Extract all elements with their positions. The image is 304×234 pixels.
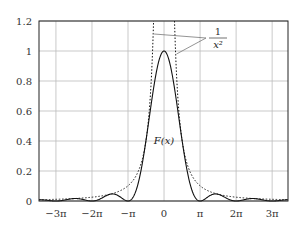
ticks: −3π−2π−π0π2π3π00.20.40.60.811.2 [16, 16, 279, 220]
annotation-arrow [177, 38, 206, 54]
x-tick-label: 0 [161, 208, 167, 219]
y-tick-label: 1.2 [16, 16, 32, 27]
series-fx-line [39, 51, 288, 201]
x-tick-label: −3π [45, 208, 67, 219]
fx-label: F(x) [153, 135, 174, 146]
x-tick-label: −2π [81, 208, 103, 219]
y-tick-label: 0 [26, 196, 32, 207]
x-tick-label: π [197, 208, 204, 219]
y-tick-label: 0.8 [16, 76, 32, 87]
x-tick-label: −π [121, 208, 136, 219]
annotation-denominator: x² [213, 39, 223, 50]
x-tick-label: 2π [230, 208, 243, 219]
series-inverse-square-right [175, 21, 288, 200]
y-tick-label: 0.4 [16, 136, 32, 147]
y-tick-label: 0.6 [16, 106, 32, 117]
annotation-arrow [154, 34, 206, 38]
grid [39, 21, 288, 201]
chart: −3π−2π−π0π2π3π00.20.40.60.811.2 F(x) 1 x… [0, 0, 304, 234]
x-tick-label: 3π [266, 208, 279, 219]
inverse-square-annotation: 1 x² [154, 26, 227, 54]
annotation-numerator: 1 [215, 26, 221, 37]
y-tick-label: 1 [26, 46, 32, 57]
y-tick-label: 0.2 [16, 166, 32, 177]
